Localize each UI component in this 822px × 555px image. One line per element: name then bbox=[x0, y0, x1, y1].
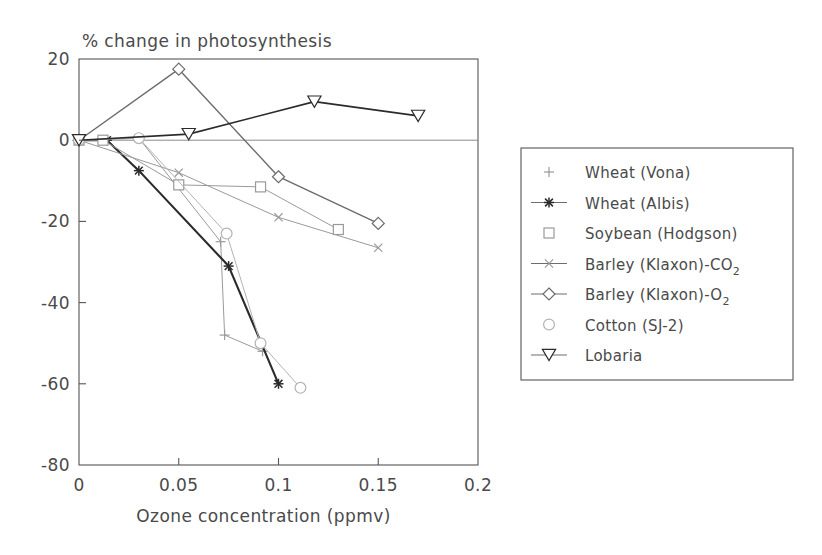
chart-title: % change in photosynthesis bbox=[82, 31, 332, 51]
y-tick-label: -40 bbox=[41, 293, 70, 313]
series-line bbox=[79, 69, 378, 223]
legend-item-label: Wheat (Vona) bbox=[585, 164, 691, 182]
series-1 bbox=[74, 133, 268, 356]
x-tick-label: 0.15 bbox=[359, 475, 398, 495]
legend-marker-diamond-icon bbox=[543, 288, 555, 300]
legend-item-2[interactable]: Wheat (Albis) bbox=[531, 195, 690, 213]
series-3 bbox=[74, 135, 343, 234]
data-point bbox=[224, 261, 234, 271]
legend-item-3[interactable]: Soybean (Hodgson) bbox=[544, 225, 738, 243]
photosynthesis-ozone-line-chart: 200-20-40-60-8000.050.10.150.2% change i… bbox=[0, 0, 822, 555]
data-point bbox=[133, 133, 144, 144]
legend-item-label: Barley (Klaxon)-O2 bbox=[585, 286, 730, 308]
data-point bbox=[274, 213, 282, 221]
series-6 bbox=[74, 133, 306, 393]
legend-item-7[interactable]: Lobaria bbox=[531, 347, 643, 365]
x-tick-label: 0 bbox=[73, 475, 84, 495]
legend-item-label: Lobaria bbox=[585, 347, 643, 365]
series-5 bbox=[73, 63, 384, 229]
x-axis-label: Ozone concentration (ppmv) bbox=[136, 506, 390, 526]
x-tick-label: 0.2 bbox=[464, 475, 492, 495]
data-point bbox=[175, 169, 183, 177]
data-point bbox=[221, 228, 232, 239]
legend-subscript: 2 bbox=[722, 295, 729, 308]
series-line bbox=[79, 138, 300, 388]
legend-marker-square-icon bbox=[544, 228, 554, 238]
y-tick-label: 20 bbox=[48, 49, 70, 69]
data-point bbox=[295, 382, 306, 393]
data-point bbox=[98, 135, 108, 145]
legend-item-5[interactable]: Barley (Klaxon)-O2 bbox=[531, 286, 730, 308]
y-tick-label: 0 bbox=[59, 130, 70, 150]
series-layer bbox=[72, 63, 424, 393]
legend-marker-plus-icon bbox=[544, 167, 554, 177]
data-point bbox=[374, 244, 382, 252]
axis-layer: 200-20-40-60-8000.050.10.150.2% change i… bbox=[41, 31, 492, 526]
series-7 bbox=[72, 96, 424, 146]
data-point bbox=[256, 182, 266, 192]
data-point bbox=[220, 330, 230, 340]
series-line bbox=[79, 102, 418, 141]
data-point bbox=[372, 217, 384, 229]
series-line bbox=[79, 140, 279, 384]
x-tick-label: 0.05 bbox=[159, 475, 198, 495]
legend-item-6[interactable]: Cotton (SJ-2) bbox=[544, 317, 684, 335]
legend-item-label: Soybean (Hodgson) bbox=[585, 225, 738, 243]
legend-item-label: Wheat (Albis) bbox=[585, 195, 690, 213]
data-point bbox=[134, 166, 144, 176]
legend: Wheat (Vona)Wheat (Albis)Soybean (Hodgso… bbox=[521, 148, 793, 380]
x-tick-label: 0.1 bbox=[264, 475, 292, 495]
legend-item-label: Cotton (SJ-2) bbox=[585, 317, 684, 335]
y-tick-label: -80 bbox=[41, 455, 70, 475]
legend-item-label: Barley (Klaxon)-CO2 bbox=[585, 256, 740, 278]
legend-item-4[interactable]: Barley (Klaxon)-CO2 bbox=[531, 256, 740, 278]
chart-screenshot: 200-20-40-60-8000.050.10.150.2% change i… bbox=[0, 0, 822, 555]
legend-marker-circle-icon bbox=[544, 319, 555, 330]
data-point bbox=[333, 225, 343, 235]
legend-item-1[interactable]: Wheat (Vona) bbox=[544, 164, 691, 182]
data-point bbox=[255, 338, 266, 349]
y-tick-label: -20 bbox=[41, 211, 70, 231]
legend-subscript: 2 bbox=[733, 265, 740, 278]
data-point bbox=[274, 379, 284, 389]
legend-marker-asterisk-icon bbox=[544, 198, 554, 208]
series-line bbox=[79, 140, 338, 229]
y-tick-label: -60 bbox=[41, 374, 70, 394]
